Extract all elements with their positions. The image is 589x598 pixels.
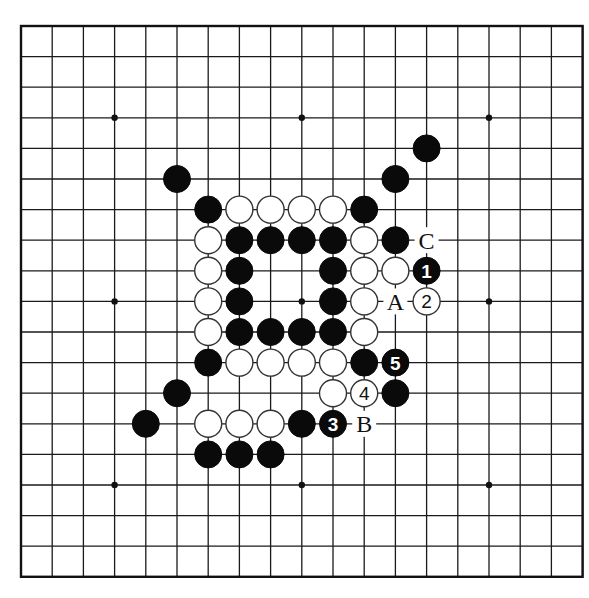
black-stone[interactable] <box>132 410 159 437</box>
letter-mark-B[interactable]: B <box>352 411 376 438</box>
star-point <box>486 482 492 488</box>
letter-mark-C[interactable]: C <box>415 227 439 254</box>
black-stone-move-1[interactable]: 1 <box>413 257 440 284</box>
white-stone[interactable] <box>257 196 284 223</box>
black-stone[interactable] <box>320 288 347 315</box>
white-stone[interactable] <box>320 349 347 376</box>
black-stone[interactable] <box>413 135 440 162</box>
white-stone[interactable] <box>195 319 222 346</box>
black-stone[interactable] <box>226 319 253 346</box>
black-stone[interactable] <box>320 227 347 254</box>
black-stone[interactable] <box>164 380 191 407</box>
black-stone[interactable] <box>382 227 409 254</box>
black-stone-move-5[interactable]: 5 <box>382 349 409 376</box>
black-stone[interactable] <box>257 227 284 254</box>
move-number-label: 2 <box>421 291 432 312</box>
letter-mark-A[interactable]: A <box>383 288 407 315</box>
white-stone[interactable] <box>382 257 409 284</box>
black-stone[interactable] <box>288 227 315 254</box>
black-stone[interactable] <box>257 441 284 468</box>
white-stone[interactable] <box>195 288 222 315</box>
white-stone-move-2[interactable]: 2 <box>413 288 440 315</box>
move-number-label: 1 <box>421 261 432 282</box>
black-stone[interactable] <box>164 166 191 193</box>
black-stone[interactable] <box>382 380 409 407</box>
black-stone[interactable] <box>351 196 378 223</box>
star-point <box>486 115 492 121</box>
white-stone[interactable] <box>288 349 315 376</box>
white-stone[interactable] <box>257 349 284 376</box>
letter-label: C <box>419 228 435 254</box>
black-stone[interactable] <box>195 196 222 223</box>
letter-label: B <box>356 411 372 437</box>
black-stone[interactable] <box>320 257 347 284</box>
black-stone[interactable] <box>226 227 253 254</box>
white-stone[interactable] <box>351 227 378 254</box>
black-stone[interactable] <box>320 319 347 346</box>
black-stone[interactable] <box>351 349 378 376</box>
black-stone[interactable] <box>226 441 253 468</box>
star-point <box>299 115 305 121</box>
white-stone[interactable] <box>351 319 378 346</box>
white-stone[interactable] <box>195 257 222 284</box>
star-point <box>111 115 117 121</box>
white-stone[interactable] <box>257 410 284 437</box>
black-stone[interactable] <box>257 319 284 346</box>
white-stone[interactable] <box>195 227 222 254</box>
black-stone[interactable] <box>288 410 315 437</box>
black-stone[interactable] <box>226 257 253 284</box>
star-point <box>299 298 305 304</box>
star-point <box>111 298 117 304</box>
white-stone-move-4[interactable]: 4 <box>351 380 378 407</box>
white-stone[interactable] <box>226 349 253 376</box>
black-stone[interactable] <box>226 288 253 315</box>
go-board[interactable]: 12543 CAB <box>0 0 589 598</box>
white-stone[interactable] <box>320 196 347 223</box>
white-stone[interactable] <box>226 410 253 437</box>
black-stone[interactable] <box>288 319 315 346</box>
white-stone[interactable] <box>226 196 253 223</box>
letter-label: A <box>387 289 405 315</box>
move-number-label: 4 <box>359 383 370 404</box>
move-number-label: 5 <box>390 353 401 374</box>
black-stone-move-3[interactable]: 3 <box>320 410 347 437</box>
white-stone[interactable] <box>288 196 315 223</box>
white-stone[interactable] <box>320 380 347 407</box>
black-stone[interactable] <box>382 166 409 193</box>
white-stone[interactable] <box>351 288 378 315</box>
white-stone[interactable] <box>195 410 222 437</box>
black-stone[interactable] <box>195 441 222 468</box>
white-stone[interactable] <box>351 257 378 284</box>
star-point <box>111 482 117 488</box>
black-stone[interactable] <box>195 349 222 376</box>
star-point <box>299 482 305 488</box>
star-point <box>486 298 492 304</box>
move-number-label: 3 <box>328 414 339 435</box>
